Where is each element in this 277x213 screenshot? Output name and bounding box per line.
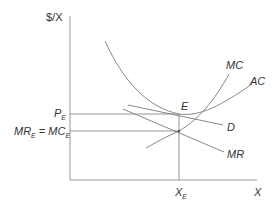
mr-curve	[123, 109, 224, 152]
demand-curve-label: D	[227, 121, 235, 133]
ac-curve	[105, 41, 252, 114]
x-axis-label: X	[253, 186, 262, 198]
mr-equals-mc-label: MRE = MCE	[14, 125, 70, 139]
y-axis-label: $/X	[46, 11, 63, 23]
mr-mc-intersection-point	[178, 130, 180, 132]
mr-curve-label: MR	[227, 148, 244, 160]
quantity-label: XE	[174, 186, 187, 200]
mc-curve-label: MC	[226, 59, 243, 71]
ac-curve-label: AC	[249, 75, 265, 87]
economics-diagram: $/X X MC AC D MR E PE MRE = MCE XE	[0, 0, 277, 213]
demand-curve	[128, 105, 223, 125]
equilibrium-point-label: E	[181, 100, 189, 112]
price-label: PE	[54, 107, 66, 121]
